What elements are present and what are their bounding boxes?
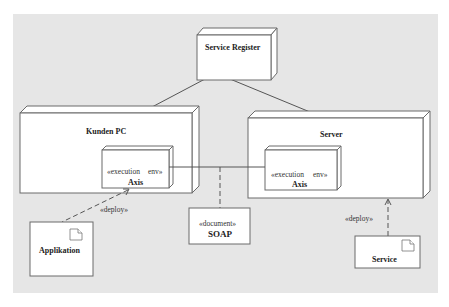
env-top-face [102, 146, 173, 150]
env-name: Axis [292, 180, 307, 189]
node-top-face [248, 111, 430, 118]
node-side-face [192, 106, 199, 193]
node-front-face [197, 35, 271, 80]
node-label: Service Register [205, 43, 261, 52]
env-top-face [265, 146, 341, 150]
env-stereotype-left: «execution [107, 167, 140, 176]
node-side-face [423, 111, 430, 198]
env-side-face [337, 146, 341, 190]
node-service-register[interactable]: Service Register [197, 28, 277, 80]
env-name: Axis [128, 178, 143, 187]
deploy-label-right: «deploy» [345, 214, 373, 223]
artifact-label: Service [372, 255, 397, 264]
node-server[interactable]: Server «execution env» Axis [248, 111, 430, 198]
env-stereotype-right: env» [148, 167, 163, 176]
artifact-soap[interactable]: «document» SOAP [189, 208, 250, 244]
node-label: Kunden PC [86, 127, 126, 136]
artifact-applikation[interactable]: Applikation [30, 222, 93, 276]
document-icon [70, 229, 82, 240]
deploy-label-left: «deploy» [100, 205, 128, 214]
execution-env-axis-client[interactable]: «execution env» Axis [102, 146, 173, 188]
node-kunden-pc[interactable]: Kunden PC «execution env» Axis [20, 106, 199, 193]
env-stereotype-left: «execution [271, 170, 304, 179]
node-top-face [197, 28, 277, 35]
deployment-diagram: Service Register Kunden PC «execution en… [0, 0, 449, 307]
node-label: Server [320, 130, 343, 139]
artifact-label: SOAP [208, 229, 233, 239]
document-icon [402, 240, 414, 251]
node-side-face [271, 28, 277, 80]
artifact-label: Applikation [39, 246, 80, 255]
env-stereotype-right: env» [313, 170, 328, 179]
artifact-service[interactable]: Service [355, 236, 420, 268]
artifact-stereotype: «document» [199, 219, 236, 228]
execution-env-axis-server[interactable]: «execution env» Axis [265, 146, 341, 190]
node-top-face [20, 106, 199, 113]
